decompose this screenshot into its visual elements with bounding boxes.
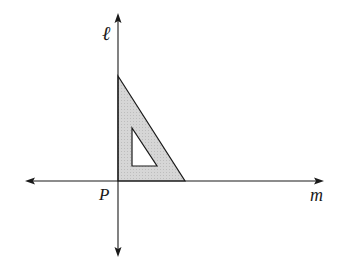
label-line-m: m: [310, 186, 323, 204]
label-point-p: P: [99, 186, 109, 203]
diagram-canvas: [0, 0, 344, 264]
shaded-right-triangle: [118, 76, 185, 181]
label-line-l: ℓ: [102, 23, 110, 43]
